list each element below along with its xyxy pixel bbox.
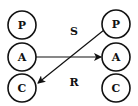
right-node-p: P [102, 10, 130, 38]
left-node-a: A [8, 43, 36, 71]
right-node-c: C [102, 74, 130, 102]
label-r: R [69, 76, 79, 89]
right-node-a: A [102, 43, 130, 71]
svg-text:A: A [17, 51, 27, 64]
label-s: S [70, 25, 78, 38]
diagram-canvas: P A C P A C S R [0, 0, 138, 106]
left-node-c: C [8, 74, 36, 102]
svg-text:P: P [112, 18, 120, 31]
svg-text:C: C [18, 82, 27, 95]
svg-text:P: P [18, 19, 26, 32]
svg-text:A: A [111, 51, 121, 64]
left-node-p: P [8, 11, 36, 39]
svg-text:C: C [112, 82, 121, 95]
